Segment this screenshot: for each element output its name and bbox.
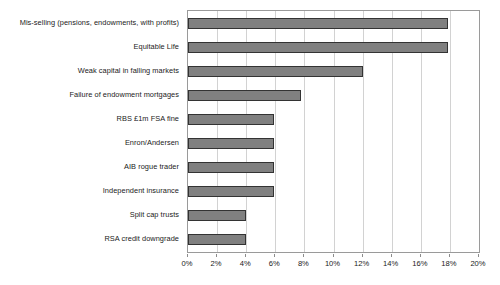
category-axis-labels: Mis-selling (pensions, endowments, with … [0,10,183,253]
axis-tick-label: 6% [269,259,280,269]
bar [188,18,448,29]
category-label: RBS £1m FSA fine [117,114,179,123]
bar [188,210,246,221]
axis-tick-label: 2% [211,259,222,269]
category-label: Enron/Andersen [125,138,179,147]
axis-tick [216,254,217,257]
category-label: Failure of endowment mortgages [69,90,179,99]
bar [188,42,448,53]
plot-area [187,10,480,253]
axis-tick [187,254,188,257]
bar [188,138,274,149]
bar [188,114,274,125]
bar [188,90,301,101]
axis-tick-label: 14% [383,259,398,269]
axis-tick-label: 16% [412,259,427,269]
category-label: AIB rogue trader [124,162,179,171]
bar [188,66,363,77]
axis-tick-label: 0% [182,259,193,269]
axis-tick-label: 4% [240,259,251,269]
axis-tick-label: 12% [354,259,369,269]
axis-tick-label: 18% [441,259,456,269]
category-label: Equitable Life [134,42,180,51]
axis-tick [449,254,450,257]
gridline [450,11,451,252]
axis-tick [333,254,334,257]
axis-tick [362,254,363,257]
axis-tick [420,254,421,257]
axis-tick-label: 10% [325,259,340,269]
bar-chart: Mis-selling (pensions, endowments, with … [0,0,500,285]
axis-tick [303,254,304,257]
category-label: Mis-selling (pensions, endowments, with … [20,18,179,27]
axis-tick [245,254,246,257]
bar [188,162,274,173]
bar [188,234,246,245]
category-label: Weak capital in falling markets [78,66,179,75]
axis-tick-label: 8% [298,259,309,269]
x-axis: 0%2%4%6%8%10%12%14%16%18%20% [187,254,480,280]
axis-tick [274,254,275,257]
bar [188,186,274,197]
category-label: RSA credit downgrade [104,234,179,243]
axis-tick [478,254,479,257]
axis-tick [391,254,392,257]
axis-tick-label: 20% [470,259,485,269]
category-label: Independent insurance [103,186,179,195]
category-label: Split cap trusts [130,210,179,219]
